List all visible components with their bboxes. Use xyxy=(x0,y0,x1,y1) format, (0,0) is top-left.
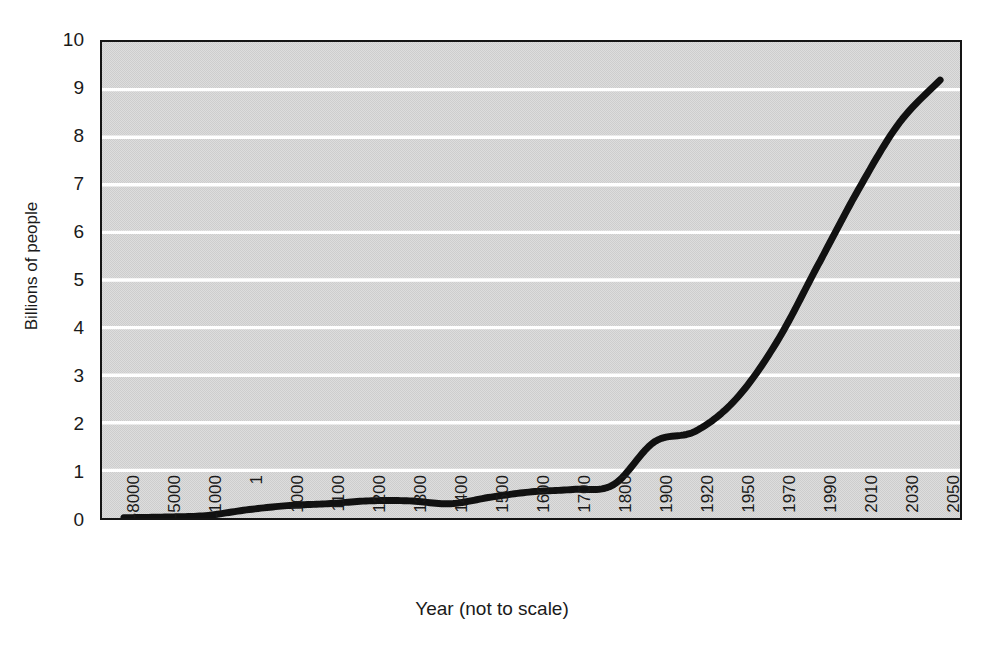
x-tick-1300: 1300 xyxy=(409,475,431,565)
x-tick-1900: 1900 xyxy=(655,475,677,565)
x-tick-1920: 1920 xyxy=(696,475,718,565)
x-tick-2050: 2050 xyxy=(942,475,964,565)
x-tick-1: 1 xyxy=(245,475,267,565)
x-tick-1970: 1970 xyxy=(778,475,800,565)
plot-area xyxy=(100,40,962,520)
y-tick-5: 5 xyxy=(73,270,84,289)
x-tick-1400: 1400 xyxy=(450,475,472,565)
x-tick-1950: 1950 xyxy=(737,475,759,565)
cropped-title-fragment xyxy=(160,0,190,1)
x-axis-tick-labels: -8000 -5000 -1000 1 1000 1100 1200 1300 … xyxy=(0,520,984,610)
y-tick-8: 8 xyxy=(73,126,84,145)
x-tick-minus1000: -1000 xyxy=(204,475,226,565)
x-tick-1100: 1100 xyxy=(327,475,349,565)
y-tick-4: 4 xyxy=(73,318,84,337)
y-axis-title: Billions of people xyxy=(22,156,42,376)
population-curve xyxy=(102,42,960,518)
x-tick-1200: 1200 xyxy=(368,475,390,565)
y-tick-2: 2 xyxy=(73,414,84,433)
x-tick-1990: 1990 xyxy=(819,475,841,565)
x-tick-1000: 1000 xyxy=(286,475,308,565)
x-tick-1500: 1500 xyxy=(491,475,513,565)
x-tick-2030: 2030 xyxy=(901,475,923,565)
y-axis-tick-labels: 10 9 8 7 6 5 4 3 2 1 0 xyxy=(0,0,92,560)
population-growth-chart: 10 9 8 7 6 5 4 3 2 1 0 Billions of peopl… xyxy=(0,0,984,647)
x-tick-minus5000: -5000 xyxy=(163,475,185,565)
y-tick-9: 9 xyxy=(73,78,84,97)
y-tick-3: 3 xyxy=(73,366,84,385)
x-axis-title: Year (not to scale) xyxy=(0,598,984,620)
y-tick-6: 6 xyxy=(73,222,84,241)
x-tick-1700: 1700 xyxy=(573,475,595,565)
x-tick-2010: 2010 xyxy=(860,475,882,565)
x-tick-1600: 1600 xyxy=(532,475,554,565)
y-tick-10: 10 xyxy=(63,30,84,49)
y-tick-7: 7 xyxy=(73,174,84,193)
x-tick-1800: 1800 xyxy=(614,475,636,565)
x-tick-minus8000: -8000 xyxy=(122,475,144,565)
y-tick-1: 1 xyxy=(73,462,84,481)
